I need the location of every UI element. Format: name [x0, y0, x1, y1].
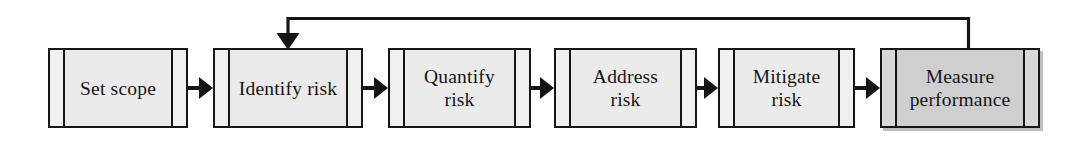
process-step-identify-risk[interactable]: Identify risk — [213, 48, 363, 128]
arrow-set-scope-to-identify-risk-icon — [188, 77, 213, 99]
box-right-divider-strip — [1023, 50, 1038, 126]
arrow-address-risk-to-mitigate-risk-icon — [697, 77, 718, 99]
arrow-head — [866, 77, 880, 99]
process-step-mitigate-risk[interactable]: Mitigate risk — [718, 48, 855, 128]
box-left-divider-strip — [720, 50, 735, 126]
box-right-divider-strip — [514, 50, 529, 126]
process-step-set-scope[interactable]: Set scope — [48, 48, 188, 128]
process-step-label: Address risk — [593, 65, 658, 111]
process-step-address-risk[interactable]: Address risk — [554, 48, 697, 128]
process-step-label: Measure performance — [910, 65, 1011, 111]
box-left-divider-strip — [50, 50, 65, 126]
box-right-divider-strip — [838, 50, 853, 126]
arrow-head — [199, 77, 213, 99]
arrow-head — [704, 77, 718, 99]
process-step-body: Mitigate risk — [735, 50, 838, 126]
process-step-label: Quantify risk — [424, 65, 495, 111]
process-step-body: Measure performance — [897, 50, 1023, 126]
arrow-head — [374, 77, 388, 99]
process-step-body: Quantify risk — [405, 50, 514, 126]
process-step-label: Identify risk — [239, 77, 337, 100]
arrow-quantify-risk-to-address-risk-icon — [531, 77, 554, 99]
process-step-label: Set scope — [80, 77, 156, 100]
arrow-identify-risk-to-quantify-risk-icon — [363, 77, 388, 99]
box-left-divider-strip — [215, 50, 230, 126]
process-step-body: Address risk — [571, 50, 680, 126]
box-right-divider-strip — [346, 50, 361, 126]
risk-process-flow-diagram: Set scope Identify risk Quantify risk Ad… — [0, 0, 1090, 150]
arrow-mitigate-risk-to-measure-performance-icon — [855, 77, 880, 99]
process-step-body: Identify risk — [230, 50, 346, 126]
box-left-divider-strip — [556, 50, 571, 126]
arrow-head — [540, 77, 554, 99]
process-step-label: Mitigate risk — [753, 65, 821, 111]
process-step-quantify-risk[interactable]: Quantify risk — [388, 48, 531, 128]
box-right-divider-strip — [171, 50, 186, 126]
process-step-measure-performance[interactable]: Measure performance — [880, 48, 1040, 128]
feedback-loop-path — [288, 19, 969, 50]
process-step-body: Set scope — [65, 50, 171, 126]
box-left-divider-strip — [882, 50, 897, 126]
box-right-divider-strip — [680, 50, 695, 126]
box-left-divider-strip — [390, 50, 405, 126]
